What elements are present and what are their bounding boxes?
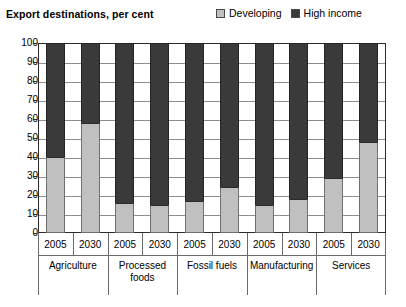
x-axis-year-label: 2005: [247, 233, 282, 255]
x-axis-category-label: Agriculture: [38, 255, 108, 301]
x-axis-year-label: 2030: [212, 233, 247, 255]
y-axis-tick-mark: [33, 81, 37, 82]
x-axis-inner-divider: [351, 233, 352, 255]
x-axis-year-label: 2005: [177, 233, 212, 255]
bars-layer: [38, 43, 386, 233]
legend-label-high-income: High income: [304, 8, 362, 19]
x-axis-group-divider: [177, 233, 178, 295]
x-axis-category-row: AgricultureProcessed foodsFossil fuelsMa…: [38, 255, 386, 301]
y-axis-tick-mark: [33, 119, 37, 120]
bar-segment-developing: [255, 205, 274, 234]
plot-area: [38, 43, 386, 233]
y-axis: 0102030405060708090100: [0, 43, 38, 233]
x-axis-group-divider: [38, 233, 39, 295]
bar-segment-high-income: [81, 43, 100, 123]
bar-segment-high-income: [150, 43, 169, 205]
x-axis-group-divider: [385, 233, 386, 295]
bar-segment-high-income: [359, 43, 378, 142]
x-axis-year-label: 2005: [38, 233, 73, 255]
bar-segment-developing: [359, 142, 378, 233]
bar-segment-high-income: [324, 43, 343, 178]
y-axis-tick-mark: [33, 233, 37, 234]
x-axis-category-label: Services: [316, 255, 386, 301]
x-axis-year-label: 2030: [282, 233, 317, 255]
x-axis-label-table: 2005203020052030200520302005203020052030…: [38, 233, 386, 301]
x-axis-inner-divider: [212, 233, 213, 255]
stacked-bar[interactable]: [46, 43, 65, 233]
bar-group: [247, 43, 317, 233]
chart-title: Export destinations, per cent: [6, 8, 154, 20]
y-axis-tick-mark: [33, 43, 37, 44]
bar-segment-developing: [46, 157, 65, 233]
bar-segment-developing: [150, 205, 169, 234]
y-axis-tick-mark: [33, 214, 37, 215]
x-axis-group-divider: [108, 233, 109, 295]
y-axis-tick-mark: [33, 100, 37, 101]
x-axis-year-label: 2030: [351, 233, 386, 255]
x-axis-divider: [38, 255, 386, 256]
legend-item-developing: Developing: [216, 8, 282, 19]
legend-item-high-income: High income: [291, 8, 362, 19]
bar-group: [177, 43, 247, 233]
x-axis-inner-divider: [142, 233, 143, 255]
bar-segment-high-income: [289, 43, 308, 199]
stacked-bar[interactable]: [359, 43, 378, 233]
y-axis-tick-mark: [33, 176, 37, 177]
x-axis-year-label: 2005: [316, 233, 351, 255]
bar-segment-high-income: [255, 43, 274, 205]
y-axis-tick-mark: [33, 195, 37, 196]
bar-group: [38, 43, 108, 233]
bar-segment-high-income: [46, 43, 65, 157]
stacked-bar[interactable]: [220, 43, 239, 233]
legend-swatch-developing: [216, 9, 225, 18]
bar-group: [108, 43, 178, 233]
x-axis-inner-divider: [282, 233, 283, 255]
x-axis-category-label: Processed foods: [108, 255, 178, 301]
stacked-bar[interactable]: [81, 43, 100, 233]
bar-segment-high-income: [220, 43, 239, 187]
stacked-bar[interactable]: [255, 43, 274, 233]
bar-segment-developing: [289, 199, 308, 233]
x-axis-year-label: 2030: [142, 233, 177, 255]
x-axis-year-label: 2005: [108, 233, 143, 255]
stacked-bar[interactable]: [289, 43, 308, 233]
y-axis-tick-mark: [33, 62, 37, 63]
x-axis: 2005203020052030200520302005203020052030…: [38, 233, 386, 301]
bar-segment-developing: [115, 203, 134, 233]
stacked-bar[interactable]: [150, 43, 169, 233]
x-axis-category-label: Manufacturing: [247, 255, 317, 301]
stacked-bar[interactable]: [115, 43, 134, 233]
x-axis-year-label: 2030: [73, 233, 108, 255]
bar-segment-developing: [81, 123, 100, 233]
y-axis-tick-mark: [33, 157, 37, 158]
x-axis-inner-divider: [73, 233, 74, 255]
legend-swatch-high-income: [291, 9, 300, 18]
x-axis-group-divider: [247, 233, 248, 295]
bar-segment-high-income: [185, 43, 204, 201]
bar-group: [316, 43, 386, 233]
bar-segment-developing: [220, 187, 239, 233]
x-axis-category-label: Fossil fuels: [177, 255, 247, 301]
x-axis-group-divider: [316, 233, 317, 295]
chart-header: Export destinations, per cent Developing…: [0, 6, 406, 26]
y-axis-tick-mark: [33, 138, 37, 139]
bar-segment-developing: [324, 178, 343, 233]
chart-root: Export destinations, per cent Developing…: [0, 0, 406, 307]
stacked-bar[interactable]: [185, 43, 204, 233]
legend-label-developing: Developing: [229, 8, 282, 19]
bar-segment-high-income: [115, 43, 134, 203]
bar-segment-developing: [185, 201, 204, 233]
stacked-bar[interactable]: [324, 43, 343, 233]
chart-legend: Developing High income: [216, 8, 362, 19]
